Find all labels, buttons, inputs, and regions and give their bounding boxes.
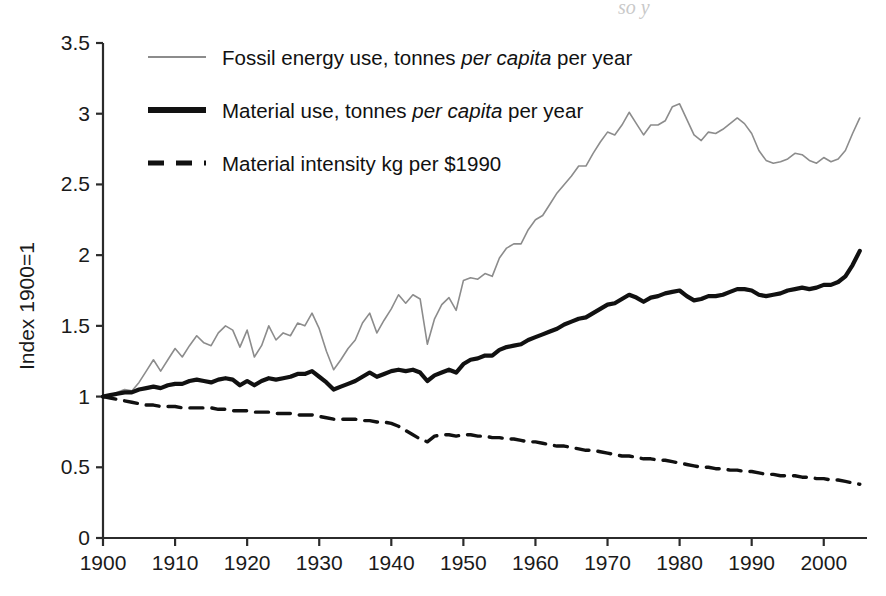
x-tick-label: 1920 — [224, 551, 271, 574]
x-axis: 1900191019201930194019501960197019801990… — [80, 538, 867, 574]
x-tick-label: 1970 — [584, 551, 631, 574]
y-tick-label: 3 — [78, 102, 90, 125]
x-tick-label: 1960 — [512, 551, 559, 574]
legend-label-1: Fossil energy use, tonnes per capita per… — [222, 46, 632, 69]
x-tick-label: 1900 — [80, 551, 127, 574]
line-chart: so y 00.511.522.533.5 190019101920193019… — [0, 0, 886, 596]
x-tick-label: 1910 — [152, 551, 199, 574]
x-tick-label: 1950 — [440, 551, 487, 574]
series-line-3 — [103, 397, 860, 485]
chart-container: so y 00.511.522.533.5 190019101920193019… — [0, 0, 886, 596]
cutoff-caption-fragment: so y — [618, 0, 650, 19]
y-tick-label: 1.5 — [61, 314, 90, 337]
x-tick-label: 1980 — [656, 551, 703, 574]
y-tick-label: 1 — [78, 385, 90, 408]
x-tick-label: 1930 — [296, 551, 343, 574]
y-axis-title: Index 1900=1 — [15, 242, 38, 370]
y-tick-label: 0.5 — [61, 455, 90, 478]
y-tick-label: 2.5 — [61, 172, 90, 195]
y-axis: 00.511.522.533.5 — [61, 31, 103, 549]
x-tick-label: 1940 — [368, 551, 415, 574]
series-line-2 — [103, 251, 860, 397]
y-tick-label: 3.5 — [61, 31, 90, 54]
x-tick-label: 1990 — [728, 551, 775, 574]
legend-label-3: Material intensity kg per $1990 — [222, 152, 501, 175]
series-line-1 — [103, 104, 860, 397]
x-tick-label: 2000 — [800, 551, 847, 574]
legend-label-2: Material use, tonnes per capita per year — [222, 99, 583, 122]
chart-legend: Fossil energy use, tonnes per capita per… — [148, 46, 632, 175]
y-tick-label: 0 — [78, 526, 90, 549]
y-tick-label: 2 — [78, 243, 90, 266]
